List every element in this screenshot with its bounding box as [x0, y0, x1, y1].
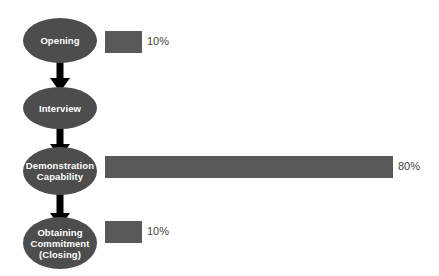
bar-opening: [105, 31, 142, 53]
node-opening: Opening: [23, 18, 97, 63]
node-label-opening: Opening: [37, 35, 82, 46]
bar-demonstration-capability: [105, 156, 393, 178]
node-label-demonstration-capability: Demonstration Capability: [23, 160, 97, 182]
bar-value-demonstration-capability: 80%: [398, 160, 420, 173]
bar-obtaining-commitment: [105, 221, 142, 243]
node-obtaining-commitment: Obtaining Commitment (Closing): [23, 217, 97, 269]
node-label-obtaining-commitment: Obtaining Commitment (Closing): [27, 227, 92, 260]
node-label-interview: Interview: [36, 103, 84, 114]
bar-value-obtaining-commitment: 10%: [147, 225, 169, 238]
diagram-canvas: 10% 80% 10% Opening Interview Demonstrat…: [0, 0, 439, 276]
bar-value-opening: 10%: [147, 35, 169, 48]
node-interview: Interview: [23, 87, 97, 129]
node-demonstration-capability: Demonstration Capability: [23, 147, 97, 195]
